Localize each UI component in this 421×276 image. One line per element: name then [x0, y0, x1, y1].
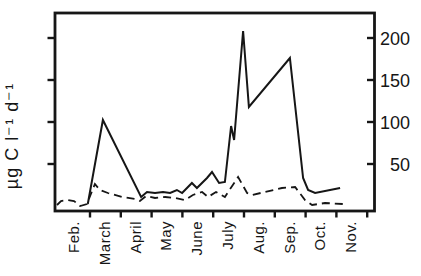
x-tick-label: Feb. [65, 221, 82, 253]
axis-box [55, 13, 375, 211]
x-tick-label: Sep. [281, 221, 298, 254]
line-chart-figure: 50100150200Feb.MarchAprilMayJuneJulyAug.… [0, 0, 421, 276]
y-tick-label: 50 [390, 155, 410, 175]
x-tick-label: April [127, 221, 144, 254]
x-tick-label: Nov. [342, 221, 359, 253]
x-tick-label: July [219, 221, 236, 250]
y-tick-label: 150 [380, 71, 410, 91]
x-tick-label: March [96, 221, 113, 265]
series-solid-line [88, 31, 340, 204]
x-tick-label: Oct. [311, 221, 328, 251]
x-tick-label: Aug. [250, 221, 267, 254]
y-axis-label: µg C l⁻¹ d⁻¹ [2, 83, 22, 189]
plot-area: 50100150200Feb.MarchAprilMayJuneJulyAug.… [0, 0, 421, 276]
x-tick-label: May [157, 221, 174, 251]
y-tick-label: 200 [380, 29, 410, 49]
y-tick-label: 100 [380, 113, 410, 133]
series-dashed-line [57, 177, 343, 206]
x-tick-label: June [188, 221, 205, 256]
